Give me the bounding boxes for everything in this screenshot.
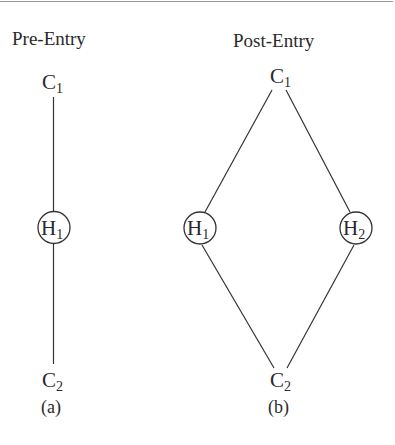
panel-b-caption: (b) <box>268 397 289 418</box>
edge-h2-c2 <box>287 245 354 368</box>
node-c2-base: C <box>42 368 56 392</box>
edge-c1-h1 <box>205 90 272 212</box>
node-c1: C1 <box>270 64 291 90</box>
node-c1-sub: 1 <box>284 75 291 90</box>
panel-b: Post-Entry C1 H1 H2 <box>184 30 372 418</box>
edge-c1-h2 <box>286 90 350 212</box>
edge-h1-c2 <box>202 245 274 368</box>
node-h2-base: H <box>343 216 358 240</box>
node-h1: H1 <box>184 212 216 244</box>
panel-b-title: Post-Entry <box>233 30 315 51</box>
node-c1-base: C <box>270 64 284 88</box>
node-c2-base: C <box>270 368 284 392</box>
node-c1-sub: 1 <box>56 81 63 96</box>
panel-a-caption: (a) <box>41 397 61 418</box>
market-entry-diagram: Pre-Entry C1 H1 C2 (a) Post-Entry <box>0 0 395 445</box>
node-c2-sub: 2 <box>56 379 63 394</box>
svg-text:C1: C1 <box>270 64 291 90</box>
node-h1-sub: 1 <box>56 227 63 242</box>
node-c2-sub: 2 <box>284 379 291 394</box>
node-c1-base: C <box>42 70 56 94</box>
svg-text:C2: C2 <box>270 368 291 394</box>
panel-a: Pre-Entry C1 H1 C2 (a) <box>12 28 86 418</box>
svg-text:C1: C1 <box>42 70 63 96</box>
node-c1: C1 <box>42 70 63 96</box>
panel-a-title: Pre-Entry <box>12 28 86 49</box>
node-h1-base: H <box>187 216 202 240</box>
node-h1-sub: 1 <box>202 227 209 242</box>
node-h2-sub: 2 <box>358 227 365 242</box>
node-h2: H2 <box>340 212 372 244</box>
node-h1-base: H <box>41 216 56 240</box>
node-c2: C2 <box>42 368 63 394</box>
node-h1: H1 <box>38 212 70 244</box>
svg-text:C2: C2 <box>42 368 63 394</box>
node-c2: C2 <box>270 368 291 394</box>
